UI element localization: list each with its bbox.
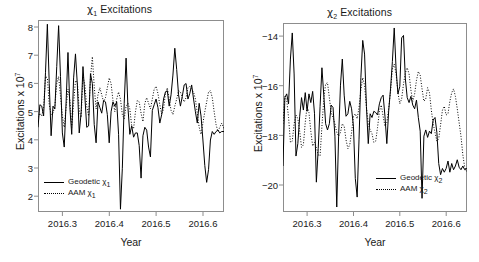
chi2-aam-line (283, 64, 467, 172)
xtick-2016.3: 2016.3 (43, 218, 81, 229)
legend-entry-geodetic: Geodetic χ2 (376, 172, 442, 183)
legend-label-geodetic: Geodetic χ2 (400, 173, 442, 182)
legend-label-aam: AAM χ1 (68, 188, 96, 197)
legend-entry-aam: AAM χ1 (44, 187, 110, 198)
chi1-ytick-marks (34, 27, 38, 196)
panel-chi2: χ2 Excitations Excitations x 107 −14 −16… (240, 0, 479, 262)
legend-entry-aam: AAM χ2 (376, 183, 442, 194)
chi2-ytick-marks (279, 36, 283, 185)
legend-label-aam: AAM χ2 (400, 184, 428, 193)
chi2-xtick-marks (307, 212, 446, 216)
chi1-xtick-marks (62, 212, 203, 216)
xtick-2016.4: 2016.4 (90, 218, 128, 229)
panel-chi1-legend: Geodetic χ1 AAM χ1 (44, 176, 110, 198)
legend-label-geodetic: Geodetic χ1 (68, 177, 110, 186)
dotted-line-key-icon (376, 185, 396, 193)
solid-line-key-icon (44, 178, 64, 186)
xtick-2016.5: 2016.5 (137, 218, 175, 229)
figure-root: χ1 Excitations Excitations x 107 8 7 6 5… (0, 0, 479, 262)
xtick-2016.6: 2016.6 (427, 218, 465, 229)
xtick-2016.3: 2016.3 (288, 218, 326, 229)
xtick-2016.6: 2016.6 (184, 218, 222, 229)
xtick-2016.4: 2016.4 (335, 218, 373, 229)
panel-chi2-legend: Geodetic χ2 AAM χ2 (376, 172, 442, 194)
panel-chi2-xlabel: Year (283, 236, 467, 248)
legend-entry-geodetic: Geodetic χ1 (44, 176, 110, 187)
panel-chi1-xlabel: Year (38, 236, 224, 248)
solid-line-key-icon (376, 174, 396, 182)
xtick-2016.5: 2016.5 (381, 218, 419, 229)
dotted-line-key-icon (44, 189, 64, 197)
panel-chi1: χ1 Excitations Excitations x 107 8 7 6 5… (0, 0, 239, 262)
